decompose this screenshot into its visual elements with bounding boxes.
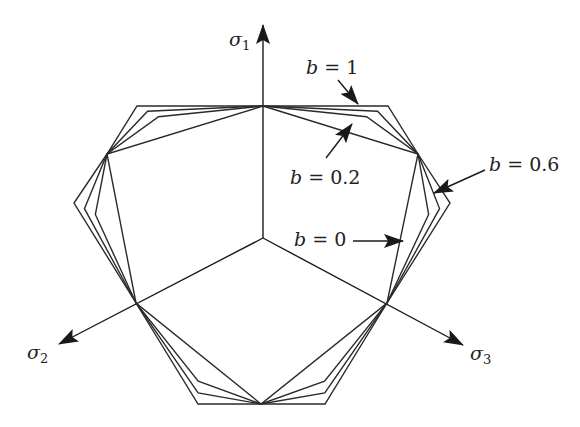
- b1-label: b = 1: [306, 58, 358, 77]
- b06-arrow: [434, 170, 485, 193]
- yield-locus-0_2: [95, 106, 428, 404]
- yield-locus-diagram: [0, 0, 580, 427]
- yield-locus-0_6: [84, 106, 439, 404]
- sigma2-axis: [59, 238, 263, 344]
- b0-label: b = 0: [294, 230, 346, 249]
- sigma2-axis-label: σ2: [27, 343, 48, 365]
- yield-loci: [74, 106, 450, 404]
- principal-stress-axes: [59, 25, 463, 345]
- yield-locus-1: [74, 106, 450, 404]
- b02-label: b = 0.2: [290, 168, 360, 187]
- b1-arrow: [338, 80, 358, 104]
- sigma3-axis: [263, 238, 463, 345]
- b06-label: b = 0.6: [489, 155, 559, 174]
- sigma1-axis-label: σ1: [229, 30, 250, 52]
- sigma3-axis-label: σ3: [470, 344, 491, 366]
